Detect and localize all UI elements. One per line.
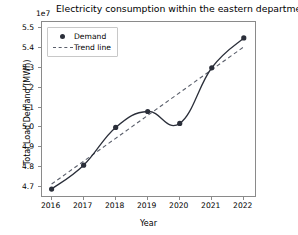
y-axis-tick-label: 4.8 [0, 162, 34, 171]
x-axis-tick-label: 2021 [201, 201, 220, 210]
x-axis-tick-label: 2016 [41, 201, 60, 210]
legend-item-demand: Demand [52, 31, 111, 42]
x-axis-label: Year [41, 219, 256, 228]
x-axis-tick-label: 2017 [73, 201, 92, 210]
data-point-marker [145, 109, 150, 114]
demand-marker-icon [52, 31, 74, 42]
y-axis-tick-label: 5.2 [0, 82, 34, 91]
y-axis-tick-label: 5.5 [0, 22, 34, 31]
trend-line-path [52, 47, 244, 184]
x-axis-tick-mark [179, 197, 180, 200]
y-axis-offset-label: 1e7 [36, 9, 50, 18]
legend-label-trend-line: Trend line [74, 43, 111, 52]
x-axis-tick-label: 2019 [137, 201, 156, 210]
chart-title: Electricity consumption within the easte… [56, 3, 296, 14]
y-axis-tick-label: 5.1 [0, 102, 34, 111]
data-point-marker [241, 35, 246, 40]
x-axis-tick-label: 2022 [233, 201, 252, 210]
data-point-marker [209, 65, 214, 70]
legend-item-trend-line: Trend line [52, 42, 111, 53]
chart-figure: Electricity consumption within the easte… [0, 0, 298, 235]
x-axis-tick-mark [211, 197, 212, 200]
y-axis-tick-label: 5.4 [0, 42, 34, 51]
data-point-marker [177, 121, 182, 126]
x-axis-tick-mark [51, 197, 52, 200]
y-axis-tick-label: 5.3 [0, 62, 34, 71]
y-axis-tick-label: 4.9 [0, 142, 34, 151]
x-axis-tick-mark [243, 197, 244, 200]
x-axis-tick-label: 2020 [169, 201, 188, 210]
data-point-marker [49, 186, 54, 191]
chart-legend: Demand Trend line [47, 27, 118, 57]
x-axis-tick-label: 2018 [105, 201, 124, 210]
dashed-line-icon [52, 42, 74, 53]
data-point-marker [113, 125, 118, 130]
x-axis-tick-mark [147, 197, 148, 200]
demand-data-markers [49, 35, 246, 191]
data-point-marker [81, 163, 86, 168]
legend-label-demand: Demand [74, 32, 106, 41]
y-axis-tick-label: 4.7 [0, 182, 34, 191]
x-axis-tick-mark [83, 197, 84, 200]
x-axis-tick-mark [115, 197, 116, 200]
y-axis-tick-label: 5.0 [0, 122, 34, 131]
